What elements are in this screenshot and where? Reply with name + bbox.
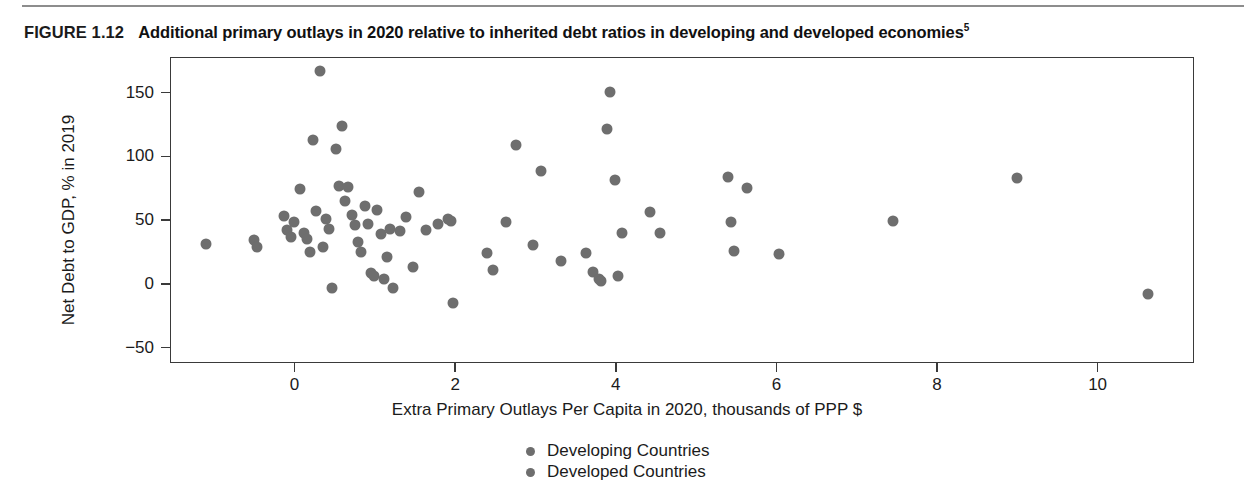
scatter-point [359, 200, 370, 211]
scatter-point [356, 246, 367, 257]
scatter-point [317, 241, 328, 252]
scatter-point [725, 217, 736, 228]
scatter-point [605, 87, 616, 98]
chart-legend: Developing CountriesDeveloped Countries [0, 441, 1254, 482]
scatter-point [536, 166, 547, 177]
scatter-point [343, 181, 354, 192]
scatter-point [773, 249, 784, 260]
scatter-point [200, 239, 211, 250]
y-axis-tick [161, 347, 170, 349]
scatter-plot-area[interactable] [170, 57, 1194, 363]
scatter-point [349, 220, 360, 231]
figure-title-text: Additional primary outlays in 2020 relat… [138, 23, 964, 41]
x-axis-tick [615, 363, 617, 372]
scatter-point [728, 245, 739, 256]
figure-title-footnote-marker: 5 [964, 22, 969, 33]
x-axis-tick-label: 6 [746, 375, 806, 395]
legend-label: Developed Countries [547, 462, 706, 482]
scatter-point [645, 207, 656, 218]
scatter-point [382, 251, 393, 262]
scatter-point [528, 240, 539, 251]
figure-title: Additional primary outlays in 2020 relat… [138, 22, 969, 42]
scatter-point [330, 143, 341, 154]
x-axis-tick [454, 363, 456, 372]
scatter-point [555, 255, 566, 266]
scatter-point [616, 227, 627, 238]
scatter-point [378, 273, 389, 284]
scatter-point [602, 124, 613, 135]
x-axis-title: Extra Primary Outlays Per Capita in 2020… [0, 400, 1254, 420]
scatter-point [340, 195, 351, 206]
y-axis-tick-label: 0 [96, 274, 154, 294]
figure-page: FIGURE 1.12 Additional primary outlays i… [0, 0, 1254, 493]
y-axis-tick-label: 150 [96, 83, 154, 103]
scatter-point [613, 271, 624, 282]
y-axis-tick [161, 156, 170, 158]
scatter-point [324, 223, 335, 234]
scatter-point [311, 206, 322, 217]
scatter-point [401, 212, 412, 223]
scatter-point [655, 227, 666, 238]
scatter-point [407, 262, 418, 273]
scatter-point [481, 248, 492, 259]
x-axis-tick-label: 4 [586, 375, 646, 395]
legend-item[interactable]: Developing Countries [522, 441, 732, 461]
x-axis-tick [294, 363, 296, 372]
legend-marker-icon [526, 447, 535, 456]
scatter-point [288, 217, 299, 228]
scatter-point [285, 231, 296, 242]
scatter-point [362, 218, 373, 229]
x-axis-tick-label: 2 [425, 375, 485, 395]
y-axis-tick-label: 100 [96, 146, 154, 166]
x-axis-tick [1097, 363, 1099, 372]
x-axis-tick [776, 363, 778, 372]
y-axis-tick-label: −50 [96, 338, 154, 358]
scatter-point [304, 246, 315, 257]
y-axis-tick [161, 219, 170, 221]
scatter-point [394, 226, 405, 237]
y-axis-tick-label: 50 [96, 210, 154, 230]
scatter-point [420, 225, 431, 236]
scatter-point [327, 282, 338, 293]
legend-label: Developing Countries [547, 441, 710, 461]
scatter-point [510, 139, 521, 150]
scatter-point [1011, 172, 1022, 183]
scatter-point [595, 276, 606, 287]
scatter-point [314, 65, 325, 76]
x-axis-tick-label: 0 [264, 375, 324, 395]
scatter-point [295, 184, 306, 195]
y-axis-title: Net Debt to GDP, % in 2019 [59, 75, 79, 365]
x-axis-tick-label: 8 [907, 375, 967, 395]
x-axis-tick-label: 10 [1068, 375, 1128, 395]
figure-number-label: FIGURE 1.12 [24, 23, 124, 42]
scatter-point [1143, 288, 1154, 299]
scatter-point [741, 183, 752, 194]
legend-marker-icon [526, 468, 535, 477]
scatter-point [301, 234, 312, 245]
scatter-point [488, 264, 499, 275]
scatter-point [500, 217, 511, 228]
scatter-point [372, 204, 383, 215]
scatter-point [722, 171, 733, 182]
scatter-point [446, 216, 457, 227]
scatter-point [337, 120, 348, 131]
figure-header: FIGURE 1.12 Additional primary outlays i… [24, 22, 1250, 48]
legend-item[interactable]: Developed Countries [522, 462, 732, 482]
scatter-point [610, 175, 621, 186]
y-axis-tick [161, 92, 170, 94]
scatter-point [414, 186, 425, 197]
scatter-point [447, 297, 458, 308]
header-divider [22, 5, 1244, 7]
x-axis-tick [936, 363, 938, 372]
scatter-point [888, 216, 899, 227]
scatter-point [251, 241, 262, 252]
scatter-point [308, 134, 319, 145]
y-axis-tick [161, 283, 170, 285]
scatter-point [388, 282, 399, 293]
scatter-point [581, 248, 592, 259]
